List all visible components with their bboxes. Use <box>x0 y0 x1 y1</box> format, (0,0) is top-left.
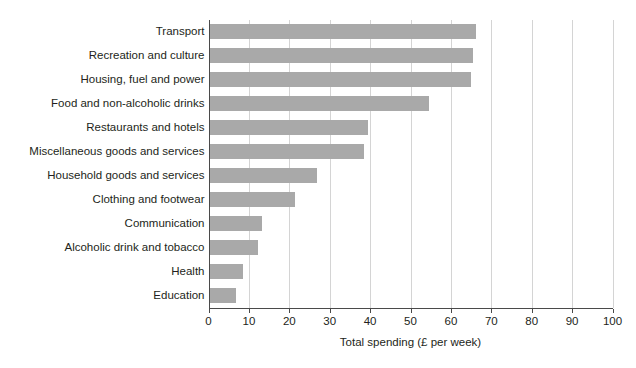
tick-mark <box>532 309 533 313</box>
y-axis-label: Education <box>7 288 209 303</box>
bar <box>209 168 317 183</box>
bar <box>209 48 473 63</box>
y-axis-label: Transport <box>7 24 209 39</box>
x-tick-label: 20 <box>283 314 296 328</box>
bar <box>209 264 243 279</box>
y-axis-label: Household goods and services <box>7 168 209 183</box>
tick-mark <box>330 309 331 313</box>
x-tick-label: 0 <box>205 314 211 328</box>
bar <box>209 240 258 255</box>
y-axis-category-labels: TransportRecreation and cultureHousing, … <box>0 20 209 308</box>
y-axis-label: Alcoholic drink and tobacco <box>7 240 209 255</box>
bar <box>209 24 477 39</box>
gridline <box>532 20 533 308</box>
x-tick-label: 10 <box>242 314 255 328</box>
tick-mark <box>370 309 371 313</box>
x-tick-label: 40 <box>364 314 377 328</box>
y-axis-label: Miscellaneous goods and services <box>7 144 209 159</box>
bar <box>209 216 262 231</box>
x-tick-label: 60 <box>444 314 457 328</box>
x-tick-label: 90 <box>566 314 579 328</box>
gridline <box>249 20 250 308</box>
bar <box>209 192 296 207</box>
gridline <box>491 20 492 308</box>
tick-mark <box>411 309 412 313</box>
bar <box>209 288 237 303</box>
x-tick-label: 50 <box>404 314 417 328</box>
tick-mark <box>491 309 492 313</box>
gridline <box>370 20 371 308</box>
y-axis-label: Health <box>7 264 209 279</box>
y-axis-label: Housing, fuel and power <box>7 72 209 87</box>
gridline <box>613 20 614 308</box>
bar <box>209 72 472 87</box>
tick-mark <box>572 309 573 313</box>
y-axis-label: Recreation and culture <box>7 48 209 63</box>
x-tick-label: 70 <box>485 314 498 328</box>
tick-mark <box>249 309 250 313</box>
gridline <box>451 20 452 308</box>
plot-area <box>209 20 613 308</box>
gridline <box>411 20 412 308</box>
tick-mark <box>289 309 290 313</box>
bar-chart-figure: TransportRecreation and cultureHousing, … <box>0 0 636 368</box>
gridline <box>289 20 290 308</box>
y-axis-label: Food and non-alcoholic drinks <box>7 96 209 111</box>
tick-mark <box>451 309 452 313</box>
x-tick-label: 100 <box>603 314 622 328</box>
bar <box>209 120 369 135</box>
y-axis-label: Restaurants and hotels <box>7 120 209 135</box>
y-axis-label: Communication <box>7 216 209 231</box>
bar <box>209 96 429 111</box>
bar <box>209 144 365 159</box>
gridline <box>330 20 331 308</box>
gridline <box>572 20 573 308</box>
x-tick-label: 30 <box>323 314 336 328</box>
x-tick-label: 80 <box>525 314 538 328</box>
y-axis-label: Clothing and footwear <box>7 192 209 207</box>
x-axis-title: Total spending (£ per week) <box>209 336 613 348</box>
tick-mark <box>613 309 614 313</box>
y-axis-line <box>209 20 210 309</box>
tick-mark <box>209 309 210 313</box>
